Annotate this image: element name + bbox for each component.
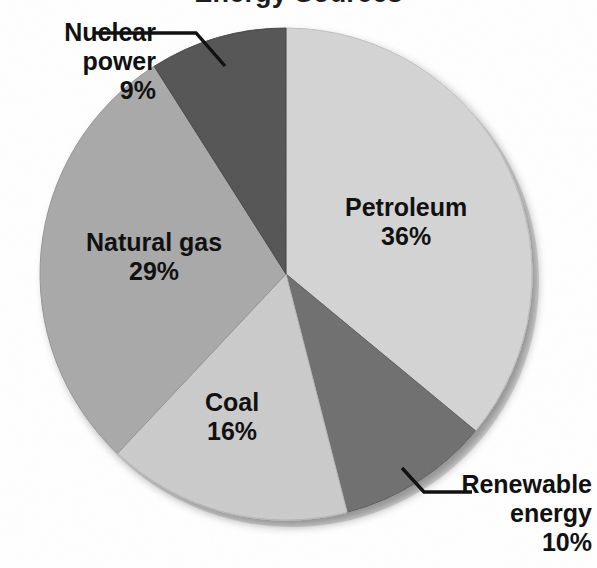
slice-label-nuclear-power-percent: 9% [6, 76, 156, 105]
slice-label-coal-name: Coal [205, 388, 259, 417]
slice-label-petroleum: Petroleum 36% [345, 193, 467, 251]
slice-label-petroleum-name: Petroleum [345, 193, 467, 222]
slice-label-nuclear-power-name-line1: Nuclear [6, 18, 156, 47]
slice-label-nuclear-power: Nuclear power 9% [6, 18, 156, 105]
slice-label-renewable-energy: Renewable energy 10% [377, 470, 592, 557]
slice-label-natural-gas: Natural gas 29% [86, 228, 222, 286]
slice-label-nuclear-power-name-line2: power [6, 47, 156, 76]
slice-label-coal-percent: 16% [205, 417, 259, 446]
slice-label-natural-gas-percent: 29% [86, 257, 222, 286]
slice-label-renewable-energy-name-line1: Renewable [377, 470, 592, 499]
slice-label-coal: Coal 16% [205, 388, 259, 446]
slice-label-renewable-energy-percent: 10% [377, 528, 592, 557]
slice-label-renewable-energy-name-line2: energy [377, 499, 592, 528]
slice-label-natural-gas-name: Natural gas [86, 228, 222, 257]
slice-label-petroleum-percent: 36% [345, 222, 467, 251]
pie-chart-figure: Energy Sources [0, 0, 597, 568]
